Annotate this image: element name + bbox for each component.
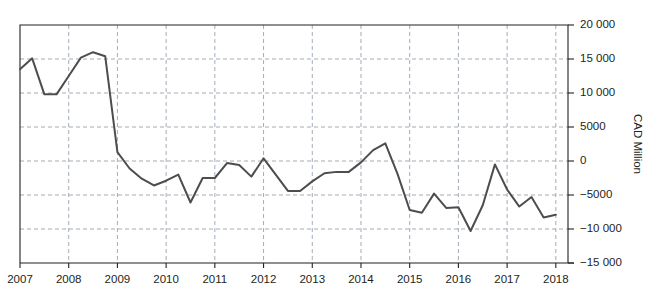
x-axis-tick-label: 2010 — [153, 273, 179, 285]
line-chart: 20 00015 00010 00050000−5000−10 000−15 0… — [0, 0, 645, 300]
y-axis-tick-label: −10 000 — [580, 222, 622, 234]
y-axis-tick-label: −5000 — [580, 188, 612, 200]
x-axis-tick-label: 2008 — [56, 273, 82, 285]
y-axis-tick-label: 15 000 — [580, 52, 615, 64]
y-axis-tick-labels: 20 00015 00010 00050000−5000−10 000−15 0… — [580, 18, 622, 268]
x-axis-tick-labels: 2007200820092010201120122013201420152016… — [7, 273, 568, 285]
x-axis-tick-label: 2012 — [251, 273, 277, 285]
x-axis-tick-label: 2011 — [202, 273, 227, 285]
x-axis-tick-label: 2007 — [7, 273, 33, 285]
y-axis-ticks — [568, 25, 574, 263]
x-axis-tick-label: 2009 — [105, 273, 131, 285]
plot-background — [20, 25, 568, 263]
y-axis-tick-label: 5000 — [580, 120, 606, 132]
chart-container: 20 00015 00010 00050000−5000−10 000−15 0… — [0, 0, 645, 300]
x-axis-tick-label: 2014 — [348, 273, 374, 285]
x-axis-ticks — [20, 263, 556, 268]
y-axis-title: CAD Million — [632, 114, 644, 174]
x-axis-tick-label: 2015 — [397, 273, 423, 285]
cropped-header-text — [18, 0, 438, 10]
x-axis-tick-label: 2016 — [446, 273, 472, 285]
x-axis-tick-label: 2013 — [299, 273, 325, 285]
x-axis-tick-label: 2018 — [543, 273, 569, 285]
y-axis-tick-label: −15 000 — [580, 256, 622, 268]
y-axis-tick-label: 20 000 — [580, 18, 615, 30]
x-axis-tick-label: 2017 — [494, 273, 520, 285]
y-axis-tick-label: 0 — [580, 154, 586, 166]
y-axis-tick-label: 10 000 — [580, 86, 615, 98]
